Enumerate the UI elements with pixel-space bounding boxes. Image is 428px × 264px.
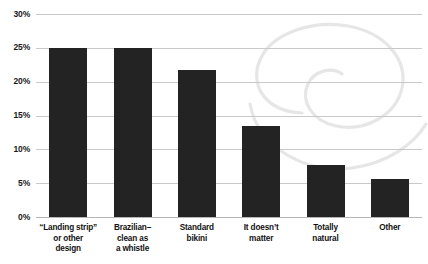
gridline — [36, 149, 422, 150]
y-axis-tick-label: 5% — [0, 179, 30, 188]
y-axis-tick-label: 30% — [0, 10, 30, 19]
x-axis-category-label: Standardbikini — [165, 223, 229, 244]
gridline — [36, 82, 422, 83]
x-axis-category-label: Brazilian–clean asa whistle — [100, 223, 164, 255]
gridline — [36, 116, 422, 117]
y-axis-tick-label: 15% — [0, 111, 30, 120]
bar — [307, 165, 345, 217]
x-axis-category-label: “Landing strip”or otherdesign — [36, 223, 100, 255]
gridline — [36, 183, 422, 184]
bar — [242, 126, 280, 217]
y-axis-tick-label: 0% — [0, 213, 30, 222]
y-axis-tick-label: 20% — [0, 77, 30, 86]
gridline — [36, 48, 422, 49]
gridline — [36, 14, 422, 15]
bar — [371, 179, 409, 217]
bar — [178, 70, 216, 217]
bar — [114, 48, 152, 217]
y-axis-tick-label: 10% — [0, 145, 30, 154]
x-axis-category-label: Totallynatural — [293, 223, 357, 244]
bar — [49, 48, 87, 217]
gridline — [36, 217, 422, 218]
x-axis-category-label: It doesn’tmatter — [229, 223, 293, 244]
y-axis-tick-label: 25% — [0, 43, 30, 52]
x-axis-category-label: Other — [358, 223, 422, 234]
